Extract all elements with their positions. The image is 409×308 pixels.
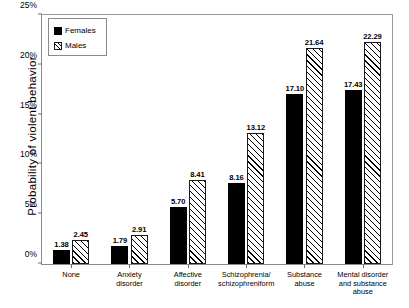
legend-label-females: Females — [65, 26, 96, 35]
x-axis-tick-label: Mental disorder and substance abuse — [326, 271, 400, 297]
bar-females: 17.10 — [286, 94, 303, 264]
x-axis-tick-mark — [246, 264, 247, 268]
x-axis-tick-mark — [363, 264, 364, 268]
bar-males: 21.64 — [306, 48, 323, 264]
y-axis-tick-label: 15% — [20, 100, 42, 110]
bar-males: 8.41 — [189, 180, 206, 264]
chart-legend: Females Males — [48, 18, 107, 56]
y-axis-tick-label: 20% — [20, 50, 42, 60]
y-axis-tick-label: 10% — [20, 149, 42, 159]
bar-value-label: 1.79 — [113, 236, 127, 245]
bar-females: 1.79 — [111, 246, 128, 264]
bar-females: 5.70 — [170, 207, 187, 264]
bar-group: 5.708.41Affective disorder — [159, 15, 217, 264]
bar-value-label: 5.70 — [171, 197, 185, 206]
legend-item-males: Males — [54, 38, 102, 53]
y-axis-tick-label: 25% — [20, 0, 42, 10]
bar-value-label: 8.16 — [229, 173, 243, 182]
hatched-swatch-icon — [54, 42, 62, 50]
x-axis-tick-mark — [129, 264, 130, 268]
bar-value-label: 2.91 — [132, 225, 146, 234]
bar-males: 2.45 — [72, 240, 89, 264]
bar-males: 2.91 — [131, 235, 148, 264]
legend-label-males: Males — [65, 41, 86, 50]
bar-group: 8.1613.12Schizophrenia/ schizophreniform — [217, 15, 275, 264]
bar-value-label: 17.43 — [344, 80, 363, 89]
bar-group: 17.1021.64Substance abuse — [275, 15, 333, 264]
bar-value-label: 21.64 — [305, 38, 324, 47]
bar-value-label: 1.38 — [54, 240, 68, 249]
y-axis-title: Probability of violent behavior — [26, 11, 38, 261]
y-axis-tick-label: 0% — [25, 249, 42, 259]
y-axis-tick-label: 5% — [25, 199, 42, 209]
bar-females: 8.16 — [228, 183, 245, 264]
bar-males: 22.29 — [364, 42, 381, 264]
x-axis-tick-mark — [71, 264, 72, 268]
bar-males: 13.12 — [247, 133, 264, 264]
bar-value-label: 13.12 — [247, 123, 266, 132]
x-axis-tick-mark — [188, 264, 189, 268]
bar-value-label: 2.45 — [74, 230, 88, 239]
x-axis-tick-mark — [304, 264, 305, 268]
solid-black-swatch-icon — [54, 27, 62, 35]
bar-value-label: 8.41 — [190, 170, 204, 179]
bar-group: 1.792.91Anxiety disorder — [100, 15, 158, 264]
legend-item-females: Females — [54, 23, 102, 38]
bar-group: 17.4322.29Mental disorder and substance … — [334, 15, 392, 264]
bar-value-label: 17.10 — [286, 84, 305, 93]
bar-females: 17.43 — [345, 90, 362, 264]
bar-females: 1.38 — [53, 250, 70, 264]
violent-behavior-bar-chart: Probability of violent behavior 0%5%10%1… — [0, 0, 409, 308]
bar-value-label: 22.29 — [363, 32, 382, 41]
